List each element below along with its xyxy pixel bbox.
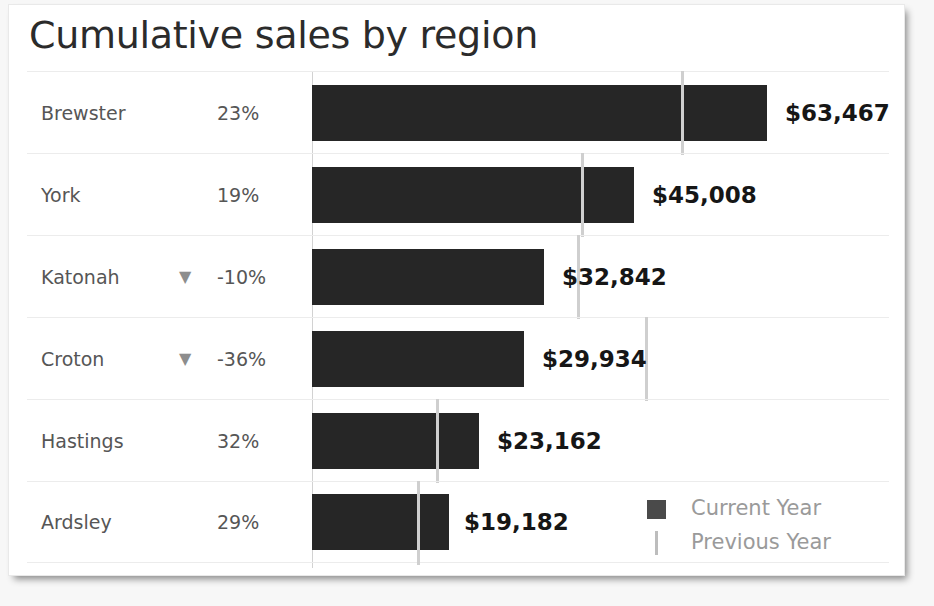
row-plot: $29,934 <box>312 318 889 399</box>
marker-previous-year <box>417 481 420 565</box>
legend-line-icon <box>655 531 658 555</box>
marker-previous-year <box>681 71 684 155</box>
legend-label: Previous Year <box>691 530 831 554</box>
screenshot-root: Cumulative sales by region Brewster 23% … <box>0 0 934 606</box>
bar-value-label: $23,162 <box>497 428 602 454</box>
row-percent: -36% <box>217 348 287 370</box>
row-region-label: Katonah <box>41 266 120 288</box>
marker-previous-year <box>436 399 439 483</box>
bar-current-year <box>312 85 767 141</box>
legend-item-current-year[interactable]: Current Year <box>639 493 879 527</box>
chart-legend: Current Year Previous Year <box>639 493 879 561</box>
bar-current-year <box>312 249 544 305</box>
bar-current-year <box>312 167 634 223</box>
bar-current-year <box>312 331 524 387</box>
row-plot: $63,467 <box>312 72 889 153</box>
legend-item-previous-year[interactable]: Previous Year <box>639 527 879 561</box>
row-plot: $32,842 <box>312 236 889 317</box>
row-region-label: Croton <box>41 348 104 370</box>
row-percent: 23% <box>217 102 287 124</box>
trend-down-icon: ▼ <box>179 351 191 367</box>
bar-value-label: $29,934 <box>542 346 647 372</box>
legend-label: Current Year <box>691 496 821 520</box>
legend-square-icon <box>647 500 666 519</box>
row-percent: 19% <box>217 184 287 206</box>
row-plot: $45,008 <box>312 154 889 235</box>
row-region-label: Hastings <box>41 430 124 452</box>
table-row[interactable]: York 19% $45,008 <box>27 153 889 235</box>
table-row[interactable]: Croton ▼ -36% $29,934 <box>27 317 889 399</box>
bar-current-year <box>312 494 449 550</box>
table-row[interactable]: Brewster 23% $63,467 <box>27 71 889 153</box>
row-region-label: York <box>41 184 81 206</box>
row-plot: $23,162 <box>312 400 889 481</box>
row-percent: -10% <box>217 266 287 288</box>
marker-previous-year <box>581 153 584 237</box>
bar-current-year <box>312 413 479 469</box>
bar-value-label: $32,842 <box>562 264 667 290</box>
bar-value-label: $63,467 <box>785 100 890 126</box>
table-row[interactable]: Hastings 32% $23,162 <box>27 399 889 481</box>
page-title: Cumulative sales by region <box>29 13 538 57</box>
table-row[interactable]: Katonah ▼ -10% $32,842 <box>27 235 889 317</box>
row-region-label: Brewster <box>41 102 126 124</box>
row-region-label: Ardsley <box>41 511 112 533</box>
row-percent: 29% <box>217 511 287 533</box>
row-percent: 32% <box>217 430 287 452</box>
sales-card: Cumulative sales by region Brewster 23% … <box>8 4 905 576</box>
bar-value-label: $45,008 <box>652 182 757 208</box>
bar-value-label: $19,182 <box>464 509 569 535</box>
trend-down-icon: ▼ <box>179 269 191 285</box>
